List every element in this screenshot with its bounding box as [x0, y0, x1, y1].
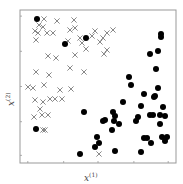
cross-marker: [79, 40, 84, 45]
cross-marker: [52, 96, 57, 101]
circle-marker: [153, 66, 159, 72]
cross-marker: [92, 28, 97, 33]
cross-marker: [25, 84, 30, 89]
y-axis-label-superscript: (2): [4, 92, 11, 101]
cross-marker: [101, 51, 106, 56]
cross-marker: [39, 112, 44, 117]
cross-marker: [110, 27, 115, 32]
cross-marker: [97, 39, 102, 44]
circle-marker: [120, 99, 126, 105]
cross-marker: [32, 28, 37, 33]
cross-marker: [72, 52, 77, 57]
circle-marker: [138, 103, 144, 109]
circle-marker: [112, 113, 118, 119]
cross-marker: [81, 69, 86, 74]
cross-marker: [50, 30, 55, 35]
cross-marker: [33, 37, 38, 42]
cross-marker: [44, 30, 49, 35]
circle-marker: [33, 126, 39, 132]
cross-marker: [67, 65, 72, 70]
circle-marker: [151, 94, 157, 100]
cross-marker: [67, 27, 72, 32]
circle-marker: [128, 82, 134, 88]
circle-marker: [109, 127, 115, 133]
cross-marker: [96, 151, 101, 156]
circle-marker: [155, 48, 161, 54]
circle-marker: [116, 121, 122, 127]
cross-marker: [45, 53, 50, 58]
cross-marker: [89, 33, 94, 38]
circle-marker: [138, 149, 144, 155]
y-axis-label-text: x: [6, 101, 16, 106]
cross-marker: [77, 35, 82, 40]
cross-marker: [32, 97, 37, 102]
circle-marker: [148, 140, 154, 146]
cross-marker: [31, 114, 36, 119]
cross-marker: [57, 87, 62, 92]
circle-marker: [157, 121, 163, 127]
circle-marker: [147, 51, 153, 57]
scatter-plot: [0, 0, 183, 184]
circle-marker: [94, 134, 100, 140]
circle-marker: [111, 118, 117, 124]
cross-marker: [30, 85, 35, 90]
circle-marker: [133, 118, 139, 124]
circle-marker: [62, 41, 68, 47]
cross-marker: [45, 112, 50, 117]
circle-marker: [160, 104, 166, 110]
cross-marker: [33, 69, 38, 74]
cross-marker: [35, 30, 40, 35]
circle-marker: [162, 138, 168, 144]
circle-marker: [34, 16, 40, 22]
cross-marker: [37, 106, 42, 111]
plot-frame: [20, 10, 176, 163]
circle-marker: [144, 135, 150, 141]
cross-marker: [53, 55, 58, 60]
circle-marker: [77, 151, 83, 157]
cross-marker: [72, 25, 77, 30]
circle-marker: [157, 112, 163, 118]
circle-marker: [112, 148, 118, 154]
circle-marker: [155, 85, 161, 91]
cross-marker: [71, 17, 76, 22]
x-axis-label-superscript: (1): [89, 171, 98, 178]
cross-marker: [104, 47, 109, 52]
x-axis-label: x(1): [84, 166, 114, 182]
cross-marker: [104, 30, 109, 35]
circle-marker: [141, 91, 147, 97]
cross-marker: [46, 72, 51, 77]
cross-marker: [41, 16, 46, 21]
cross-marker: [59, 96, 64, 101]
cross-marker: [47, 96, 52, 101]
circle-marker: [126, 74, 132, 80]
circle-marker: [92, 144, 98, 150]
circle-marker: [102, 117, 108, 123]
cross-marker: [68, 86, 73, 91]
cross-marker: [41, 82, 46, 87]
circle-marker: [81, 109, 87, 115]
circle-marker: [83, 35, 89, 41]
y-axis-label: x(2): [2, 78, 20, 108]
cross-marker: [83, 46, 88, 51]
cross-marker: [100, 35, 105, 40]
cross-marker: [40, 99, 45, 104]
circle-marker: [158, 34, 164, 40]
circle-marker: [150, 112, 156, 118]
cross-markers: [25, 16, 115, 156]
cross-marker: [54, 18, 59, 23]
circle-marker: [162, 113, 168, 119]
